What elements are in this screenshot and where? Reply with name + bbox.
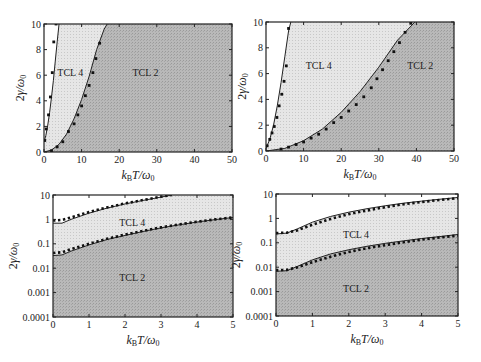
- x-tick-label: 10: [299, 153, 309, 164]
- plot-area: [43, 23, 232, 153]
- y-tick-label: 0.0001: [246, 311, 274, 322]
- y-tick-label: 0: [36, 147, 41, 158]
- x-tick-label: 1: [87, 319, 92, 330]
- y-tick-label: 0.001: [28, 287, 51, 298]
- y-tick-label: 10: [253, 17, 263, 28]
- data-point: [362, 95, 365, 98]
- data-point: [278, 104, 281, 107]
- x-tick-label: 10: [77, 154, 87, 165]
- x-tick-label: 2: [346, 318, 351, 329]
- region-label: TCL 2: [407, 60, 433, 71]
- x-tick-label: 50: [449, 153, 459, 164]
- data-point: [355, 103, 358, 106]
- x-tick-label: 20: [336, 153, 346, 164]
- x-tick-label: 5: [231, 319, 236, 330]
- data-point: [273, 125, 276, 128]
- data-point: [52, 41, 55, 44]
- x-axis-label: kBT/ω0: [121, 168, 154, 183]
- data-point: [91, 71, 94, 74]
- data-point: [67, 130, 70, 133]
- x-tick-label: 3: [383, 318, 388, 329]
- data-point: [49, 96, 52, 99]
- y-axis-label: 2γ/ω0: [235, 73, 250, 100]
- x-tick-label: 0: [274, 318, 279, 329]
- data-point: [73, 122, 76, 125]
- data-point: [381, 68, 384, 71]
- data-point: [285, 64, 288, 67]
- x-tick-label: 4: [419, 318, 424, 329]
- data-point: [376, 77, 379, 80]
- x-tick-label: 0: [51, 319, 56, 330]
- y-tick-label: 8: [258, 42, 263, 53]
- data-point: [51, 71, 54, 74]
- y-tick-label: 0.0001: [23, 312, 51, 323]
- chart-panel-bottom-left: TCL 4TCL 20123450.00010.0010.010.1110kBT…: [6, 190, 236, 349]
- y-tick-label: 0.01: [256, 262, 274, 273]
- y-tick-label: 6: [258, 68, 263, 79]
- x-tick-label: 30: [374, 153, 384, 164]
- chart-panel-bottom-right: TCL 4TCL 20123450.00010.0010.010.1110kBT…: [229, 189, 461, 348]
- y-tick-label: 0.1: [38, 238, 51, 249]
- x-tick-label: 5: [456, 318, 461, 329]
- x-tick-label: 40: [411, 153, 421, 164]
- x-axis-label: kBT/ω0: [343, 167, 376, 182]
- region-label: TCL 4: [343, 229, 369, 240]
- data-point: [276, 116, 279, 119]
- x-tick-label: 30: [152, 154, 162, 165]
- y-tick-label: 0.1: [261, 237, 274, 248]
- figure: TCL 4TCL 2010203040500246810kBT/ω02γ/ω0 …: [0, 0, 481, 362]
- y-tick-label: 6: [36, 70, 41, 81]
- y-tick-label: 2: [258, 120, 263, 131]
- y-tick-label: 2: [36, 121, 41, 132]
- data-point: [56, 145, 59, 148]
- y-tick-label: 0.01: [33, 263, 51, 274]
- data-point: [280, 93, 283, 96]
- region-label: TCL 4: [57, 67, 83, 78]
- data-point: [80, 105, 83, 108]
- data-point: [317, 133, 320, 136]
- region-label: TCL 4: [306, 60, 332, 71]
- y-tick-label: 4: [258, 94, 263, 105]
- x-tick-label: 50: [227, 154, 237, 165]
- y-axis-label: 2γ/ω0: [13, 75, 28, 102]
- chart-panel-top-right: TCL 4TCL 2010203040500246810kBT/ω02γ/ω0: [235, 17, 459, 183]
- data-point: [310, 137, 313, 140]
- data-point: [340, 116, 343, 119]
- data-point: [287, 146, 290, 149]
- data-point: [287, 27, 290, 30]
- plot-area: [266, 22, 454, 151]
- data-point: [271, 132, 274, 135]
- data-point: [295, 143, 298, 146]
- data-point: [302, 141, 305, 144]
- x-tick-label: 20: [114, 154, 124, 165]
- data-point: [404, 31, 407, 34]
- plot-area: [53, 195, 233, 317]
- y-tick-label: 4: [36, 95, 41, 106]
- y-tick-label: 8: [36, 44, 41, 55]
- x-axis-label: kBT/ω0: [126, 333, 159, 348]
- x-tick-label: 40: [189, 154, 199, 165]
- data-point: [47, 113, 50, 116]
- data-point: [370, 86, 373, 89]
- x-axis-label: kBT/ω0: [350, 332, 383, 347]
- x-tick-label: 0: [264, 153, 269, 164]
- data-point: [94, 57, 97, 60]
- y-tick-label: 1: [268, 213, 273, 224]
- region-label: TCL 4: [119, 217, 145, 228]
- x-tick-label: 2: [123, 319, 128, 330]
- data-point: [392, 50, 395, 53]
- data-point: [88, 84, 91, 87]
- y-axis-label: 2γ/ω0: [6, 243, 21, 270]
- data-point: [61, 140, 64, 143]
- data-point: [45, 128, 48, 131]
- y-tick-label: 10: [263, 189, 273, 200]
- data-point: [268, 138, 271, 141]
- data-point: [76, 113, 79, 116]
- data-point: [387, 59, 390, 62]
- y-tick-label: 0.001: [251, 286, 274, 297]
- plot-area: [276, 194, 458, 316]
- x-tick-label: 0: [42, 154, 47, 165]
- data-point: [280, 148, 283, 151]
- region-label: TCL 2: [343, 283, 369, 294]
- data-point: [332, 121, 335, 124]
